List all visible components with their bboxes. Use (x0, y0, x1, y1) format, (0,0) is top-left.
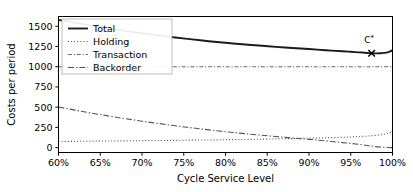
x-tick-label: 95% (340, 157, 361, 168)
x-axis-tick-labels: 60%65%70%75%80%85%90%95%100% (48, 157, 406, 168)
x-tick-label: 85% (257, 157, 278, 168)
y-tick-label: 1250 (28, 41, 52, 52)
y-tick-label: 0 (46, 142, 52, 153)
y-tick-label: 500 (34, 102, 52, 113)
legend-label: Transaction (92, 49, 147, 60)
x-tick-label: 75% (173, 157, 194, 168)
x-tick-label: 90% (298, 157, 319, 168)
x-tick-label: 100% (379, 157, 406, 168)
cost-vs-service-level-line-chart: C* 60%65%70%75%80%85%90%95%100% 02505007… (0, 0, 413, 192)
y-tick-label: 250 (34, 122, 52, 133)
x-tick-label: 60% (48, 157, 69, 168)
y-tick-label: 750 (34, 81, 52, 92)
chart-legend: TotalHoldingTransactionBackorder (62, 19, 172, 74)
y-tick-label: 1500 (28, 21, 52, 32)
legend-label: Holding (93, 36, 129, 47)
y-tick-label: 1000 (28, 61, 52, 72)
chart-figure: C* 60%65%70%75%80%85%90%95%100% 02505007… (0, 0, 413, 192)
x-tick-label: 65% (90, 157, 111, 168)
y-axis-title: Costs per period (6, 43, 17, 125)
x-tick-label: 70% (131, 157, 152, 168)
x-tick-label: 80% (215, 157, 236, 168)
legend-label: Backorder (93, 62, 141, 73)
x-axis-title: Cycle Service Level (177, 173, 274, 184)
legend-label: Total (92, 23, 115, 34)
